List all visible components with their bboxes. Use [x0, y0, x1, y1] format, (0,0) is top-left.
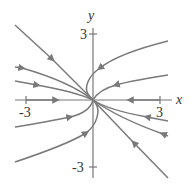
- axes: [15, 28, 172, 178]
- y-tick-label-neg3: -3: [72, 161, 84, 175]
- trajectory-right-lower-2: [163, 134, 168, 136]
- trajectory-right-upper: [116, 75, 168, 85]
- trajectory-straight-lower: [134, 143, 168, 178]
- x-tick-label-3: 3: [156, 106, 163, 120]
- trajectories: [15, 25, 168, 178]
- trajectory-left-upper-1: [15, 67, 22, 68]
- trajectory-straight-upper: [15, 25, 52, 59]
- y-tick-label-3: 3: [80, 28, 87, 42]
- trajectory-left-lower-hook: [15, 133, 86, 162]
- trajectory-upper-right-hook: [100, 41, 168, 68]
- trajectory-left-upper-2: [15, 81, 37, 85]
- x-tick-label-neg3: -3: [19, 106, 31, 120]
- y-axis-label: y: [88, 9, 94, 23]
- x-axis-label: x: [176, 93, 182, 107]
- phase-portrait: [0, 0, 195, 189]
